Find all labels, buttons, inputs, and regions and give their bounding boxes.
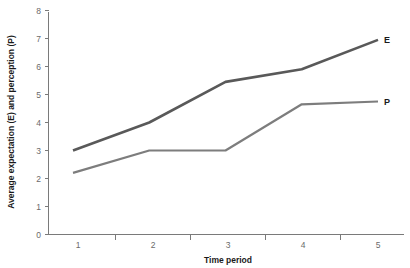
x-axis-title: Time period (204, 255, 252, 265)
y-tick-label: 1 (36, 202, 41, 212)
x-axis-tick-labels: 1 2 3 4 5 (76, 240, 381, 250)
y-axis-ticks (45, 11, 49, 235)
y-tick-label: 3 (36, 146, 41, 156)
series-line-p (73, 102, 378, 173)
y-axis-tick-labels: 8 7 6 5 4 3 2 1 0 (36, 6, 41, 240)
series-label-p: P (384, 97, 390, 107)
y-axis-title: Average expectation (E) and perception (… (6, 35, 16, 209)
y-tick-label: 6 (36, 62, 41, 72)
y-tick-label: 0 (36, 230, 41, 240)
y-tick-label: 4 (36, 118, 41, 128)
x-tick-label: 4 (301, 240, 306, 250)
x-tick-label: 1 (76, 240, 81, 250)
x-tick-label: 5 (376, 240, 381, 250)
line-chart: 8 7 6 5 4 3 2 1 0 1 2 3 4 5 Time period (0, 0, 410, 268)
y-tick-label: 7 (36, 34, 41, 44)
x-tick-label: 3 (226, 240, 231, 250)
series-line-e (73, 40, 378, 151)
chart-container: 8 7 6 5 4 3 2 1 0 1 2 3 4 5 Time period (0, 0, 410, 268)
series-label-e: E (384, 35, 390, 45)
x-tick-label: 2 (151, 240, 156, 250)
x-axis-ticks (116, 235, 341, 240)
y-tick-label: 2 (36, 174, 41, 184)
y-tick-label: 5 (36, 90, 41, 100)
y-tick-label: 8 (36, 6, 41, 16)
